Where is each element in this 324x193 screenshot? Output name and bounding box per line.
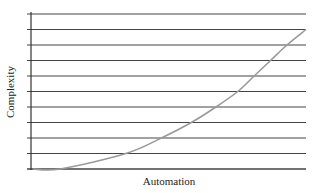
complexity-curve: [33, 30, 306, 171]
x-axis-label: Automation: [143, 175, 196, 187]
chart: Automation Complexity: [0, 0, 324, 193]
gridlines: [27, 14, 306, 169]
y-axis-label: Complexity: [4, 66, 16, 118]
